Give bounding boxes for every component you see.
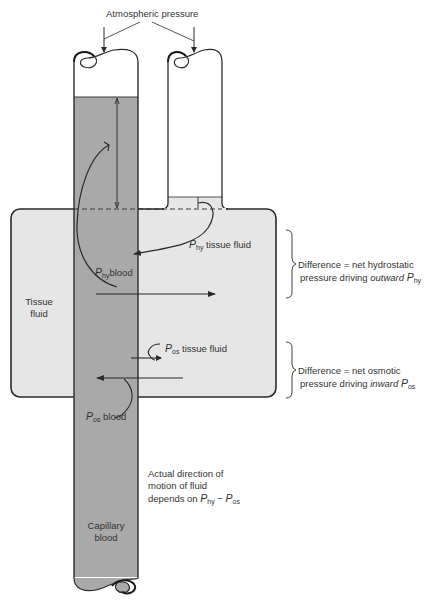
capillary-line1: Capillary	[82, 520, 130, 532]
p-symbol: P	[226, 492, 233, 504]
atmospheric-pressure-pointers	[104, 22, 194, 52]
label-suffix: blood	[109, 267, 132, 278]
hydrostatic-line1: Difference = net hydrostatic	[298, 259, 421, 271]
actual-line1: Actual direction of	[148, 468, 240, 480]
minus-sign: −	[215, 493, 226, 504]
hy-subscript: hy	[414, 277, 421, 284]
p-symbol: P	[189, 238, 196, 250]
diagram-canvas	[0, 0, 426, 601]
label-suffix: blood	[100, 411, 126, 422]
tissue-fluid-line1: Tissue	[24, 296, 54, 308]
capillary-column	[74, 49, 138, 593]
p-hy-tissue-fluid-label: Phy tissue fluid	[189, 238, 251, 254]
p-symbol: P	[165, 342, 172, 354]
os-subscript: os	[233, 498, 240, 505]
p-os-tissue-fluid-label: Pos tissue fluid	[165, 342, 227, 358]
actual-line2: motion of fluid	[148, 480, 240, 492]
hydrostatic-line2: pressure driving outward Phy	[298, 271, 421, 287]
label-suffix: tissue fluid	[203, 239, 251, 250]
actual-direction-annotation: Actual direction of motion of fluid depe…	[148, 468, 240, 508]
atmospheric-pressure-label: Atmospheric pressure	[106, 8, 198, 20]
label-suffix: tissue fluid	[179, 343, 227, 354]
p-symbol: P	[407, 271, 414, 283]
tissue-tube	[162, 49, 228, 211]
osmotic-direction: inward	[370, 378, 398, 389]
osmotic-line2: pressure driving inward Pos	[298, 377, 415, 393]
capillary-blood-label: Capillary blood	[82, 520, 130, 544]
hy-subscript: hy	[207, 498, 214, 505]
tissue-fluid-label: Tissue fluid	[24, 296, 54, 320]
os-subscript: os	[408, 383, 415, 390]
tissue-fluid-line2: fluid	[24, 308, 54, 320]
hydrostatic-difference-annotation: Difference = net hydrostatic pressure dr…	[298, 259, 421, 287]
hydrostatic-prefix: pressure driving	[300, 272, 370, 283]
p-symbol: P	[86, 410, 93, 422]
hydrostatic-bracket	[286, 230, 296, 298]
hydrostatic-direction: outward	[370, 272, 404, 283]
p-os-blood-label: Pos blood	[86, 410, 126, 426]
p-symbol: P	[401, 377, 408, 389]
actual-prefix: depends on	[148, 493, 200, 504]
p-hy-blood-label: Phyblood	[95, 266, 133, 282]
p-symbol: P	[95, 266, 102, 278]
osmotic-bracket	[286, 342, 296, 398]
osmotic-line1: Difference = net osmotic	[298, 365, 415, 377]
osmotic-prefix: pressure driving	[300, 378, 370, 389]
osmotic-difference-annotation: Difference = net osmotic pressure drivin…	[298, 365, 415, 393]
capillary-line2: blood	[82, 532, 130, 544]
actual-line3: depends on Phy − Pos	[148, 492, 240, 508]
